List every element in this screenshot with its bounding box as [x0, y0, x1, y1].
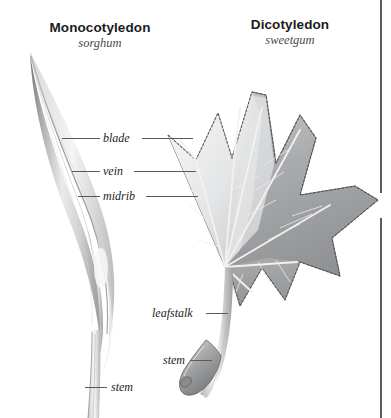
label-blade: blade — [103, 131, 130, 146]
vein-leader-left — [72, 171, 100, 172]
monocot-heading: Monocotyledon sorghum — [0, 20, 200, 51]
midrib-leader-left — [78, 196, 100, 197]
dicot-common-name: Dicotyledon — [195, 17, 385, 32]
dicot-heading: Dicotyledon sweetgum — [195, 17, 385, 48]
midrib-leader-right — [146, 196, 198, 197]
leafstalk-leader — [206, 313, 228, 314]
monocot-scientific-name: sorghum — [0, 36, 200, 51]
monocot-common-name: Monocotyledon — [0, 20, 200, 35]
label-leafstalk: leafstalk — [152, 306, 193, 321]
label-vein: vein — [103, 164, 123, 179]
label-stem-dicot: stem — [163, 353, 185, 368]
sorghum-illustration — [0, 0, 391, 418]
sorghum-leaf — [30, 52, 114, 418]
stem-dicot-leader — [190, 360, 212, 361]
label-stem-monocot: stem — [111, 380, 133, 395]
blade-leader-right — [142, 138, 193, 139]
sweetgum-leaf — [168, 92, 378, 398]
dicot-scientific-name: sweetgum — [195, 33, 385, 48]
blade-leader-left — [62, 138, 100, 139]
botany-figure: Monocotyledon sorghum Dicotyledon sweetg… — [0, 0, 391, 418]
vein-leader-right — [134, 171, 196, 172]
stem-monocot-leader — [85, 387, 107, 388]
page-edge-rule-top — [380, 0, 382, 193]
page-edge-rule-bottom — [380, 218, 382, 418]
label-midrib: midrib — [103, 189, 135, 204]
